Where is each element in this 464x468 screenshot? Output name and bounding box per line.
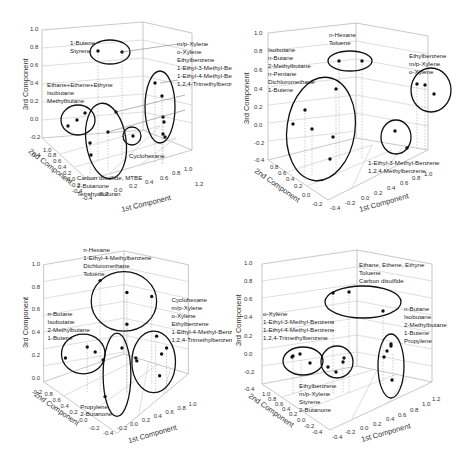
- svg-text:0.4: 0.4: [254, 86, 263, 92]
- cluster-label: Cyclohexane: [129, 152, 165, 159]
- svg-text:-0.2: -0.2: [254, 140, 265, 146]
- svg-text:0.4: 0.4: [244, 314, 253, 320]
- panel-a-plot: 1.0 0.8 0.6 0.4 0.2 0.0 -0.2 -0.4 3rd Co…: [0, 0, 232, 234]
- svg-text:-0.2: -0.2: [244, 369, 255, 375]
- cluster-label: Ethane, Ethene, Ethyne Toluene Carbon di…: [359, 261, 426, 284]
- svg-text:1.0: 1.0: [254, 30, 263, 36]
- z-axis-label: 3rd Component: [21, 57, 30, 110]
- cluster-label: Ethylbenzene m/p-Xylene Styrene 2-Butano…: [299, 382, 338, 413]
- svg-text:0.0: 0.0: [302, 192, 311, 198]
- svg-text:0.4: 0.4: [32, 329, 41, 335]
- svg-text:0.6: 0.6: [400, 180, 409, 186]
- cluster-label: o-Xylene 1-Ethyl-3-Methyl-Benzene 1-Ethy…: [263, 310, 336, 341]
- z-axis-label: 3rd Component: [234, 293, 243, 346]
- cluster-label: Isobutane n-Butane 2-Methylbutane n-Pent…: [268, 46, 317, 93]
- svg-text:0.6: 0.6: [244, 296, 253, 302]
- cluster-ellipse: [283, 347, 323, 375]
- svg-text:0.6: 0.6: [30, 62, 39, 68]
- z-axis-label: 3rd Component: [21, 297, 30, 348]
- svg-text:0.2: 0.2: [244, 333, 253, 339]
- panel-d: 1.0 0.8 0.6 0.4 0.2 0.0 -0.2 -0.4 3rd Co…: [232, 234, 464, 468]
- svg-text:0.0: 0.0: [360, 425, 369, 431]
- svg-text:0.2: 0.2: [294, 183, 303, 189]
- svg-text:1.0: 1.0: [244, 260, 253, 266]
- svg-text:0.4: 0.4: [387, 185, 396, 191]
- svg-text:-0.2: -0.2: [89, 425, 99, 431]
- svg-text:0.2: 0.2: [374, 190, 383, 196]
- svg-text:0.8: 0.8: [254, 48, 263, 54]
- svg-text:0.4: 0.4: [30, 80, 39, 86]
- data-points: [64, 279, 168, 398]
- svg-text:0.0: 0.0: [30, 116, 39, 122]
- cluster-ellipse: [145, 71, 175, 143]
- svg-text:0.4: 0.4: [286, 176, 295, 182]
- svg-text:-0.4: -0.4: [332, 434, 343, 440]
- panel-c-plot: 1.0 0.8 0.6 0.4 0.2 0.0 -0.2 3rd Compone…: [0, 234, 232, 468]
- svg-text:0.4: 0.4: [145, 179, 154, 185]
- svg-text:0.4: 0.4: [386, 416, 395, 422]
- cluster-label: Ethane+Ethene+Ethyne Isobutane Methylbut…: [47, 81, 114, 104]
- z-axis-ticks: 1.0 0.8 0.6 0.4 0.2 0.0 -0.2 -0.4: [254, 30, 265, 163]
- svg-text:0.8: 0.8: [177, 405, 186, 411]
- cluster-label: n-Butane Isobutane 2-Methylbutane 1-Bute…: [404, 305, 448, 344]
- svg-text:0.0: 0.0: [244, 351, 253, 357]
- svg-text:1.0: 1.0: [188, 401, 197, 407]
- svg-text:0.6: 0.6: [398, 412, 407, 418]
- z-axis-ticks: 1.0 0.8 0.6 0.4 0.2 0.0 -0.2 -0.4: [244, 260, 255, 392]
- svg-text:0.8: 0.8: [172, 170, 181, 176]
- svg-text:-0.2: -0.2: [312, 201, 323, 207]
- svg-text:-0.4: -0.4: [312, 429, 323, 435]
- svg-text:-0.2: -0.2: [117, 425, 127, 431]
- panel-b-plot: 1.0 0.8 0.6 0.4 0.2 0.0 -0.2 -0.4 3rd Co…: [232, 0, 464, 234]
- svg-text:-0.2: -0.2: [30, 134, 41, 140]
- svg-text:0.2: 0.2: [30, 98, 39, 104]
- svg-text:-0.2: -0.2: [345, 429, 356, 435]
- x-axis-label: 1st Component: [120, 193, 172, 214]
- svg-text:1.2: 1.2: [432, 396, 441, 402]
- z-axis-label: 3rd Component: [242, 71, 251, 124]
- panel-d-plot: 1.0 0.8 0.6 0.4 0.2 0.0 -0.2 -0.4 3rd Co…: [232, 234, 464, 468]
- cluster-label: Propylene 2-Butanone: [80, 403, 112, 418]
- svg-text:0.8: 0.8: [244, 278, 253, 284]
- svg-text:0.0: 0.0: [361, 195, 370, 201]
- svg-text:-0.4: -0.4: [254, 157, 265, 163]
- svg-text:1.2: 1.2: [195, 181, 204, 187]
- svg-text:1.0: 1.0: [30, 26, 39, 32]
- svg-text:-0.2: -0.2: [345, 200, 356, 206]
- svg-text:0.6: 0.6: [166, 409, 175, 415]
- svg-text:0.8: 0.8: [410, 407, 419, 413]
- panel-c: 1.0 0.8 0.6 0.4 0.2 0.0 -0.2 3rd Compone…: [0, 234, 232, 468]
- cluster-label: Cyclohexane m/p-Xylene o-Xylene Ethylben…: [172, 296, 232, 343]
- svg-text:0.0: 0.0: [130, 421, 139, 427]
- cluster-ellipse: [132, 331, 176, 392]
- svg-text:0.6: 0.6: [254, 67, 263, 73]
- panel-b: 1.0 0.8 0.6 0.4 0.2 0.0 -0.2 -0.4 3rd Co…: [232, 0, 464, 234]
- svg-text:0.6: 0.6: [32, 306, 41, 312]
- svg-text:1.0: 1.0: [32, 261, 41, 267]
- panel-a: 1.0 0.8 0.6 0.4 0.2 0.0 -0.2 -0.4 3rd Co…: [0, 0, 232, 234]
- svg-text:0.0: 0.0: [254, 122, 263, 128]
- svg-text:0.8: 0.8: [30, 44, 39, 50]
- svg-text:0.2: 0.2: [32, 352, 40, 358]
- z-axis-ticks: 1.0 0.8 0.6 0.4 0.2 0.0 -0.2 -0.4: [30, 26, 41, 158]
- svg-text:0.0: 0.0: [32, 375, 41, 381]
- svg-text:1.0: 1.0: [184, 166, 193, 172]
- svg-text:1.0: 1.0: [422, 401, 431, 407]
- cluster-label: m/p-Xylene o-Xylene Ethylbenzene 1-Ethyl…: [177, 40, 232, 87]
- svg-text:0.6: 0.6: [160, 175, 169, 181]
- svg-text:0.2: 0.2: [129, 183, 138, 189]
- svg-text:0.8: 0.8: [32, 284, 41, 290]
- svg-text:-0.4: -0.4: [330, 205, 341, 211]
- svg-text:0.2: 0.2: [142, 417, 150, 423]
- svg-text:-0.4: -0.4: [103, 430, 114, 436]
- z-axis-ticks: 1.0 0.8 0.6 0.4 0.2 0.0 -0.2: [32, 261, 42, 395]
- svg-text:0.2: 0.2: [373, 421, 382, 427]
- svg-text:0.8: 0.8: [412, 175, 421, 181]
- svg-text:0.2: 0.2: [254, 104, 263, 110]
- cluster-label: n-Hexane Toluene: [329, 31, 358, 46]
- cluster-label: n-Butane Isobutane 2-Methylbutane 1-Bute…: [48, 310, 92, 341]
- svg-text:0.4: 0.4: [154, 413, 163, 419]
